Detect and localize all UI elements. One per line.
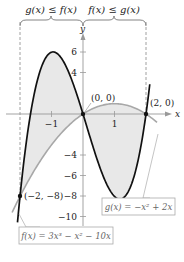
point-2-0 [144, 112, 148, 116]
tick-y-neg8: −8 [64, 191, 78, 201]
brace-right [83, 16, 146, 26]
y-axis-label: y [79, 24, 86, 34]
point-neg2-neg8-label: (−2, −8) [24, 191, 63, 201]
g-label-leader [143, 134, 158, 198]
tick-y-neg6: −6 [64, 171, 78, 181]
x-axis-arrow-icon [165, 112, 172, 117]
point-origin-label: (0, 0) [91, 93, 115, 103]
y-axis-arrow-icon [81, 33, 86, 40]
point-2-0-label: (2, 0) [150, 98, 174, 108]
tick-y-6: 6 [71, 47, 77, 57]
tick-x-1: 1 [112, 119, 118, 129]
x-axis-label: x [175, 109, 180, 119]
tick-x-neg1: −1 [45, 119, 58, 129]
area-between-curves-chart: g(x) ≤ f(x) f(x) ≤ g(x) x y −1 1 6 4 −4 … [0, 0, 184, 262]
f-label: f(x) = 3x³ − x² − 10x [20, 231, 111, 241]
tick-y-neg4: −4 [64, 150, 78, 160]
brace-left-label: g(x) ≤ f(x) [25, 4, 77, 15]
tick-y-4: 4 [71, 68, 77, 78]
brace-left [20, 16, 83, 26]
g-label: g(x) = −x² + 2x [105, 202, 173, 212]
brace-right-label: f(x) ≤ g(x) [87, 4, 140, 15]
f-label-leader [19, 214, 40, 227]
point-neg2-neg8 [18, 194, 22, 198]
tick-y-neg10: −10 [58, 212, 77, 222]
